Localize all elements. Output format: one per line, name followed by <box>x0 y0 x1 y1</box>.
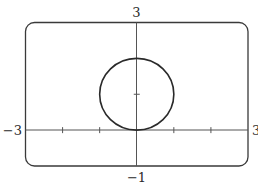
y-max-label: 3 <box>132 5 140 20</box>
graph-window: 3 −1 −3 3 <box>0 0 258 192</box>
x-min-label: −3 <box>3 123 22 138</box>
x-max-label: 3 <box>252 123 258 138</box>
y-min-label: −1 <box>127 170 146 185</box>
